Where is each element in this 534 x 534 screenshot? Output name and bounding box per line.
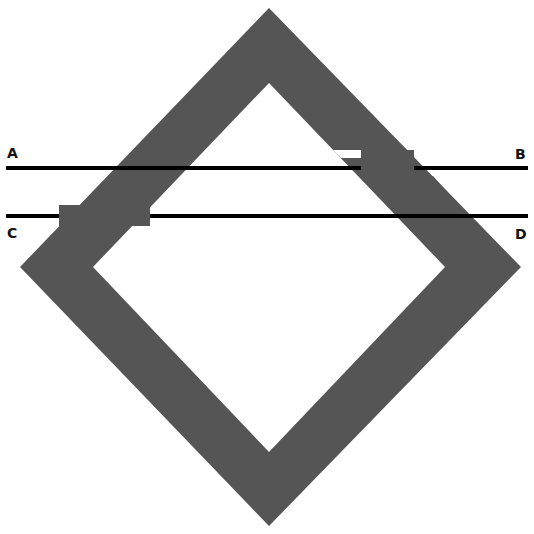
right-block-over-line <box>361 152 414 176</box>
line-ab <box>6 166 528 170</box>
diamond-frame <box>20 8 521 526</box>
label-b: B <box>515 146 526 162</box>
diagram-canvas <box>0 0 534 534</box>
right-step-cut <box>333 150 361 158</box>
label-a: A <box>7 145 18 161</box>
left-block-over-line <box>59 205 150 226</box>
label-d: D <box>515 226 527 242</box>
label-c: C <box>7 225 17 241</box>
